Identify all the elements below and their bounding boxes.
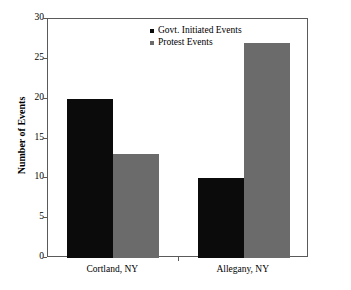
plot-area	[47, 18, 308, 257]
x-axis-tick-label: Allegany, NY	[183, 264, 303, 274]
y-axis-tick-label: 30	[0, 13, 44, 23]
chart-legend: Govt. Initiated EventsProtest Events	[150, 25, 242, 49]
x-axis-tick-mark	[178, 257, 179, 261]
legend-item: Govt. Initiated Events	[150, 25, 242, 36]
legend-item: Protest Events	[150, 37, 242, 48]
y-axis-tick-label: 25	[0, 53, 44, 63]
legend-item-label: Govt. Initiated Events	[158, 25, 242, 36]
y-axis-tick-label: 10	[0, 172, 44, 182]
bar-protest-0	[113, 154, 159, 258]
bar-chart: Number of Events 051015202530 Cortland, …	[0, 0, 351, 290]
y-axis-tick-label: 15	[0, 133, 44, 143]
bar-govt-initiated-1	[198, 178, 244, 258]
bar-govt-initiated-0	[67, 99, 113, 258]
y-axis-tick-label: 0	[0, 252, 44, 262]
legend-item-label: Protest Events	[158, 37, 213, 48]
y-axis-tick-mark	[43, 257, 47, 258]
bar-protest-1	[244, 43, 290, 258]
legend-swatch-gray-icon	[150, 41, 154, 45]
y-axis-tick-label: 5	[0, 212, 44, 222]
legend-swatch-dark-icon	[150, 29, 154, 33]
y-axis-tick-label: 20	[0, 93, 44, 103]
x-axis-tick-label: Cortland, NY	[52, 264, 172, 274]
